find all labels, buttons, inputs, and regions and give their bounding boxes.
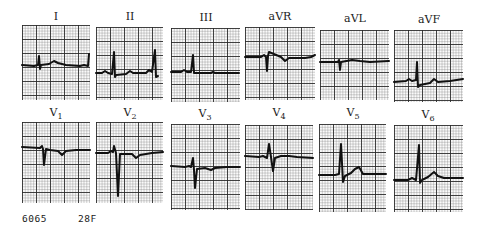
ecg-panel-V4 — [245, 125, 313, 210]
ecg-trace-V1 — [22, 122, 90, 203]
lead-label-V3: V3 — [170, 107, 240, 122]
ecg-trace-V3 — [171, 124, 240, 210]
ecg-panel-V6 — [394, 125, 463, 212]
ecg-panel-II — [96, 27, 163, 100]
lead-label-aVR: aVR — [245, 10, 315, 23]
ecg-panel-aVL — [320, 30, 389, 100]
ecg-trace-aVF — [394, 30, 463, 102]
ecg-panel-V5 — [319, 124, 386, 212]
ecg-trace-III — [171, 28, 240, 102]
ecg-trace-V4 — [245, 125, 313, 210]
lead-label-II: II — [95, 10, 165, 23]
ecg-trace-I — [22, 25, 90, 100]
lead-label-I: I — [21, 10, 91, 23]
ecg-trace-V5 — [319, 124, 386, 212]
ecg-trace-II — [96, 27, 163, 100]
record-id: 6065 — [22, 213, 47, 224]
ecg-trace-V2 — [96, 122, 163, 203]
ecg-panel-aVF — [394, 30, 463, 102]
ecg-trace-aVR — [245, 27, 315, 100]
ecg-trace-aVL — [320, 30, 389, 100]
ecg-panel-V2 — [96, 122, 163, 203]
lead-label-aVF: aVF — [394, 13, 464, 26]
ecg-panel-aVR — [245, 27, 315, 100]
lead-label-V5: V5 — [318, 106, 388, 121]
lead-label-V4: V4 — [244, 106, 314, 121]
ecg-panel-I — [22, 25, 90, 100]
lead-label-V1: V1 — [21, 106, 91, 121]
ecg-panel-V1 — [22, 122, 90, 203]
ecg-panel-V3 — [171, 124, 240, 210]
lead-label-V2: V2 — [95, 106, 165, 121]
lead-label-V6: V6 — [393, 108, 463, 123]
lead-label-III: III — [171, 11, 241, 24]
lead-label-aVL: aVL — [320, 12, 390, 25]
ecg-panel-III — [171, 28, 240, 102]
ecg-trace-V6 — [394, 125, 463, 212]
patient-info: 28F — [78, 213, 97, 224]
